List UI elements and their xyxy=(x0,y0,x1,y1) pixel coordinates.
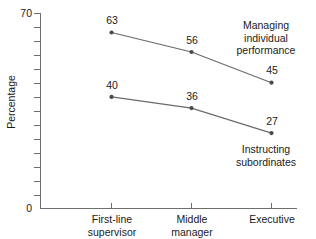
line-chart: 70 0 Percentage 63 56 45 40 36 27 Managi… xyxy=(0,0,316,239)
x-axis-category-0-line2: supervisor xyxy=(71,226,153,239)
x-axis-category-2-line1: Executive xyxy=(231,213,313,226)
series-annotation-upper-line1: Managing xyxy=(219,19,313,32)
y-axis-ticks xyxy=(34,14,41,196)
data-label-lower-1: 36 xyxy=(176,90,208,102)
data-label-lower-2: 27 xyxy=(256,115,288,127)
data-label-upper-0: 63 xyxy=(96,14,128,26)
y-axis-top-label: 70 xyxy=(10,7,32,19)
x-axis-category-2: Executive xyxy=(231,213,313,226)
x-axis-ticks xyxy=(112,203,272,209)
x-axis-category-0-line1: First-line xyxy=(71,213,153,226)
series-annotation-upper: Managing individual performance xyxy=(219,19,313,57)
x-axis-category-1-line2: manager xyxy=(151,226,233,239)
data-label-lower-0: 40 xyxy=(96,79,128,91)
series-annotation-lower-line2: subordinates xyxy=(219,156,313,169)
data-label-upper-1: 56 xyxy=(176,34,208,46)
series-annotation-upper-line2: individual xyxy=(219,32,313,45)
y-axis-bottom-label: 0 xyxy=(10,202,32,214)
x-axis-category-1: Middle manager xyxy=(151,213,233,238)
data-label-upper-2: 45 xyxy=(256,64,288,76)
series-annotation-lower: Instructing subordinates xyxy=(219,143,313,168)
y-axis-title: Percentage xyxy=(5,67,17,137)
series-annotation-lower-line1: Instructing xyxy=(219,143,313,156)
series-annotation-upper-line3: performance xyxy=(219,44,313,57)
x-axis-category-1-line1: Middle xyxy=(151,213,233,226)
x-axis-category-0: First-line supervisor xyxy=(71,213,153,238)
